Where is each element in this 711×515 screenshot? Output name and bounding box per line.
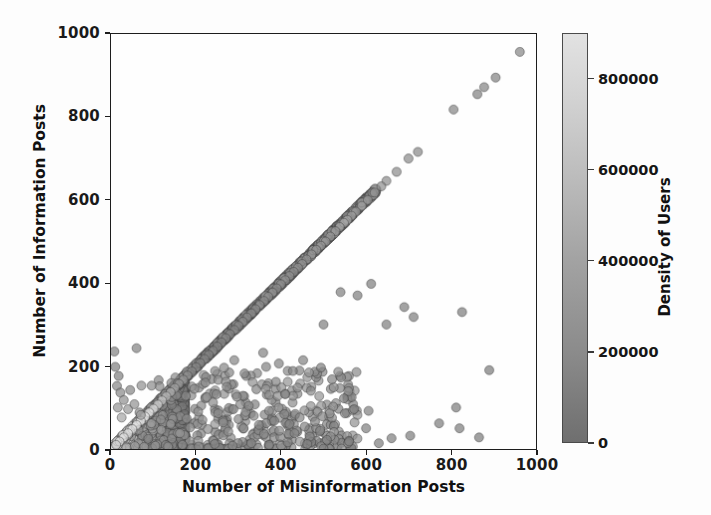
y-tick-label-400: 400 (40, 274, 100, 292)
y-tick-200 (105, 366, 110, 367)
scatter-plot-canvas (111, 34, 536, 449)
y-tick-label-800: 800 (40, 107, 100, 125)
y-axis-title: Number of Information Posts (31, 81, 49, 381)
y-tick-label-200: 200 (40, 358, 100, 376)
colorbar-tick-label-200000: 200000 (598, 344, 659, 360)
x-tick-label-200: 200 (179, 456, 211, 474)
x-tick-600 (366, 450, 367, 455)
x-tick-label-800: 800 (436, 456, 468, 474)
x-tick-label-0: 0 (105, 456, 116, 474)
colorbar-tick-400000 (588, 260, 594, 261)
y-tick-label-600: 600 (40, 191, 100, 209)
plot-area (110, 33, 537, 450)
y-tick-400 (105, 283, 110, 284)
y-tick-label-1000: 1000 (40, 24, 100, 42)
colorbar-tick-200000 (588, 351, 594, 352)
x-tick-0 (109, 450, 110, 455)
y-tick-800 (105, 116, 110, 117)
x-tick-label-1000: 1000 (516, 456, 559, 474)
x-tick-label-600: 600 (350, 456, 382, 474)
x-axis-title: Number of Misinformation Posts (110, 478, 537, 496)
colorbar-gradient (562, 33, 588, 443)
colorbar-tick-600000 (588, 169, 594, 170)
y-tick-1000 (105, 32, 110, 33)
x-tick-400 (280, 450, 281, 455)
x-tick-1000 (536, 450, 537, 455)
colorbar-tick-0 (588, 442, 594, 443)
colorbar-tick-label-0: 0 (598, 435, 608, 451)
x-tick-800 (451, 450, 452, 455)
colorbar-tick-label-600000: 600000 (598, 162, 659, 178)
y-tick-label-0: 0 (40, 441, 100, 459)
colorbar-title: Density of Users (656, 127, 674, 367)
chart-container: 02004006008001000 02004006008001000 Numb… (0, 0, 711, 515)
x-tick-label-400: 400 (265, 456, 297, 474)
colorbar-tick-label-400000: 400000 (598, 253, 659, 269)
y-tick-0 (105, 449, 110, 450)
y-tick-600 (105, 199, 110, 200)
colorbar-tick-label-800000: 800000 (598, 71, 659, 87)
colorbar-tick-800000 (588, 78, 594, 79)
x-tick-200 (195, 450, 196, 455)
